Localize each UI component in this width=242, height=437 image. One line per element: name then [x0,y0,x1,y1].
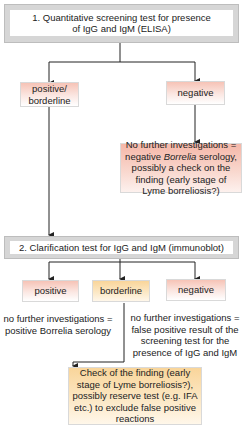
positive-label: positive [34,285,66,297]
false-positive-outcome-text: no further investigations = false positi… [128,312,242,358]
negative-box: negative [166,81,225,105]
borderline-box: borderline [92,280,150,302]
negative-outcome-text: No further investigations = negative Bor… [121,139,241,197]
positive-borderline-label: positive/ borderline [21,83,78,106]
clarification-test-box: 2. Clarification test for IgG and IgM (i… [4,236,239,259]
check-finding-text: Check of the finding (early stage of Lym… [69,367,201,425]
positive-box: positive [22,280,79,302]
negative-outcome-box: No further investigations = negative Bor… [120,143,242,193]
negative-result-label: negative [178,284,214,296]
screening-test-label: 1. Quantitative screening test for prese… [10,12,233,35]
check-finding-box: Check of the finding (early stage of Lym… [68,367,202,425]
negative-result-box: negative [166,279,226,301]
borderline-label: borderline [100,285,142,297]
positive-outcome-text: no further investigations = positive Bor… [2,313,114,336]
positive-borderline-box: positive/ borderline [20,82,79,107]
clarification-test-label: 2. Clarification test for IgG and IgM (i… [19,242,224,254]
negative-label: negative [178,87,214,99]
screening-test-box: 1. Quantitative screening test for prese… [4,4,239,43]
